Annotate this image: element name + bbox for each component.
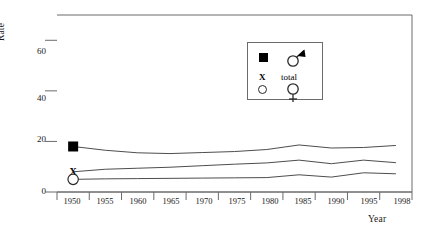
series-lines [73,145,396,179]
series-markers: X [68,141,78,184]
series-line-total [73,160,396,172]
chart-container: Rate Year 60 40 20 0 1950 1955 1960 1965… [0,0,430,242]
marker-open-circle [68,174,78,184]
marker-filled-square [68,141,78,151]
legend-total-label: total [281,72,297,82]
x-tick-marks [57,192,412,200]
mars-symbol-icon [285,48,309,68]
legend-open-circle-icon [258,85,267,94]
plot-area: X [0,0,430,242]
legend-box: X total [247,42,323,100]
series-line-male [73,145,396,154]
series-line-female [73,173,396,180]
legend-x-label: X [259,72,266,82]
y-tick-marks [45,40,57,192]
plot-frame [57,15,412,192]
legend-filled-square-icon [259,53,268,62]
venus-symbol-icon [284,83,306,105]
